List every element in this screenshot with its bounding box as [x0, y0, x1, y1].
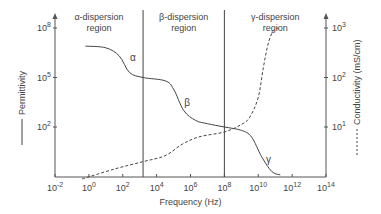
left-axis-title-group: Permittivity	[17, 70, 27, 145]
curve-label: α	[130, 52, 136, 63]
region-title: β-dispersion	[159, 12, 208, 22]
x-tick-label: 1012	[283, 181, 301, 193]
left-axis-title: Permittivity	[17, 70, 27, 115]
x-tick-label: 1014	[317, 181, 335, 193]
right-axis-title: Conductivity (mS/cm)	[352, 39, 362, 125]
left-y-tick-label: 102	[37, 120, 51, 132]
x-tick-label: 108	[217, 181, 231, 193]
right-y-tick-label: 101	[332, 120, 346, 132]
right-y-tick-label: 102	[332, 71, 346, 83]
axis-labels: Frequency (Hz)PermittivityConductivity (…	[17, 39, 362, 207]
region-subtitle: region	[263, 23, 288, 33]
chart-axes: 10-2100102104106108101010121014108105102…	[37, 13, 346, 193]
x-tick-label: 102	[116, 181, 130, 193]
right-y-tick-label: 103	[332, 21, 346, 33]
x-tick-label: 100	[82, 181, 96, 193]
curve-label: β	[184, 97, 190, 108]
region-title: γ-dispersion	[251, 12, 300, 22]
region-title: α-dispersion	[74, 12, 123, 22]
x-tick-label: 1010	[249, 181, 267, 193]
x-tick-label: 104	[150, 181, 164, 193]
x-axis-title: Frequency (Hz)	[159, 197, 221, 207]
dispersion-chart: 10-2100102104106108101010121014108105102…	[0, 0, 381, 214]
region-subtitle: region	[87, 23, 112, 33]
curve-label: γ	[266, 154, 271, 165]
permittivity-curve	[85, 46, 280, 175]
right-axis-title-group: Conductivity (mS/cm)	[352, 39, 362, 155]
right-axis-arrow-icon	[324, 13, 329, 19]
dispersion-regions: α-dispersionregionβ-dispersionregionγ-di…	[74, 10, 299, 177]
left-axis-arrow-icon	[53, 13, 58, 19]
chart-series: αβγ	[82, 28, 280, 179]
left-y-tick-label: 108	[37, 21, 51, 33]
x-tick-label: 10-2	[47, 181, 63, 193]
region-subtitle: region	[171, 23, 196, 33]
x-tick-label: 106	[184, 181, 198, 193]
left-y-tick-label: 105	[37, 71, 51, 83]
